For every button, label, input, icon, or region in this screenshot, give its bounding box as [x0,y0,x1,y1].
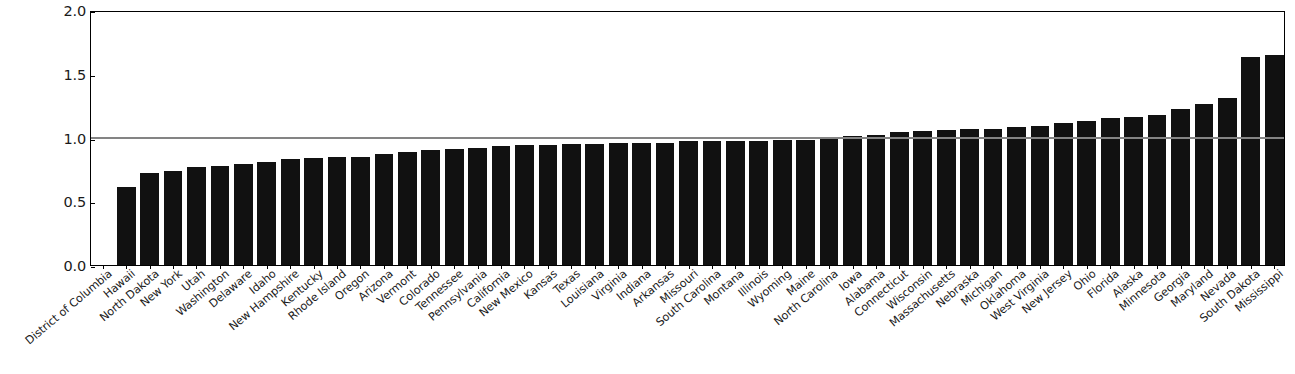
bar-chart-figure: 0.00.51.01.52.0 District of ColumbiaHawa… [0,0,1295,374]
bar [117,187,136,265]
bar [749,141,768,265]
bar [609,143,628,265]
bar [421,150,440,265]
reference-line [91,137,1284,139]
bar [1124,117,1143,265]
bar [585,144,604,265]
bar [984,129,1003,265]
y-axis-tick-mark [91,76,95,77]
bar [398,152,417,265]
bar [703,141,722,265]
bar [1171,109,1190,265]
bar [937,130,956,265]
bar [1241,57,1260,265]
y-axis-tick-mark [91,267,95,268]
bar [187,167,206,265]
bar [468,148,487,265]
bar [726,141,745,265]
bar [1101,118,1120,265]
x-axis-tick-label: District of Columbia [23,268,114,347]
y-axis-tick-label: 0.0 [64,259,86,274]
y-axis-tick-label: 1.0 [64,131,86,146]
y-axis-tick-label: 1.5 [64,68,86,83]
y-axis-tick-mark [91,12,95,13]
plot-axes [90,11,1285,266]
bar [164,171,183,265]
bar [1054,123,1073,265]
y-axis-tick-label: 2.0 [64,4,86,19]
bar [445,149,464,265]
bar [351,157,370,265]
bar [890,132,909,265]
bar [1031,126,1050,265]
bar [1007,127,1026,265]
bar [679,141,698,265]
bar [773,140,792,265]
bar [257,162,276,265]
bar [140,173,159,265]
bar [304,158,323,265]
bar [1218,98,1237,265]
bar [492,146,511,265]
plot-area [91,12,1284,265]
y-axis-tick-mark [91,203,95,204]
bar [913,131,932,265]
bar [632,143,651,265]
y-axis-tick-label: 0.5 [64,195,86,210]
bar [211,166,230,265]
bar [960,129,979,265]
bar [843,136,862,265]
bar [281,159,300,265]
bar [820,139,839,265]
bar [1265,55,1284,265]
bar [796,140,815,265]
bar [539,145,558,265]
bar [867,135,886,265]
bar [656,143,675,265]
bar [515,145,534,265]
bar [375,154,394,265]
bar [1077,121,1096,265]
y-axis-tick-mark [91,140,95,141]
bar [328,157,347,265]
bar [562,144,581,265]
bar [234,164,253,265]
x-axis-tick-labels: District of ColumbiaHawaiiNorth DakotaNe… [90,268,1285,374]
bar [1195,104,1214,265]
